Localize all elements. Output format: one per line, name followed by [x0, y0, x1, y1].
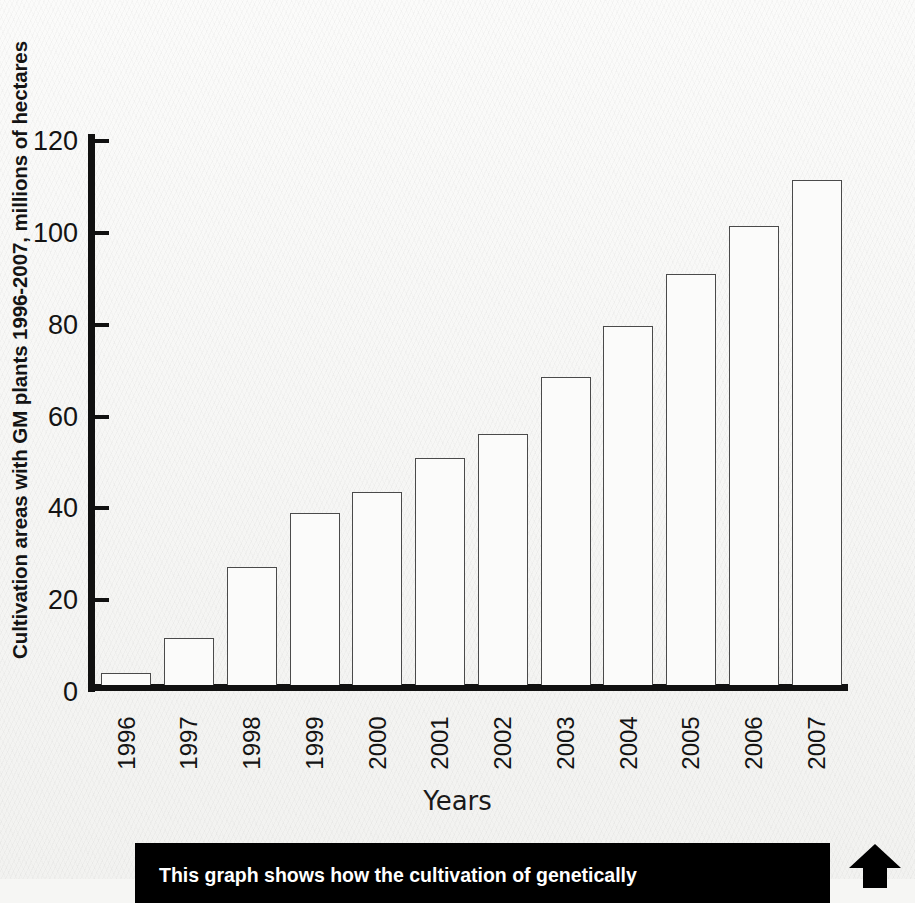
bar-slot [534, 134, 597, 685]
y-axis-tick-label: 0 [63, 679, 78, 706]
x-axis-tick-label: 1997 [175, 716, 203, 769]
y-axis-tick-label: 80 [48, 311, 78, 338]
up-arrow-icon [845, 842, 905, 888]
bar-slot [221, 134, 284, 685]
bar-slot [409, 134, 472, 685]
bar-2005 [666, 274, 716, 685]
caption-band: This graph shows how the cultivation of … [135, 843, 830, 903]
bar-2002 [478, 434, 528, 685]
bar-2003 [541, 377, 591, 685]
x-axis-tick-label-slot: 1998 [221, 697, 284, 779]
bar-slot [346, 134, 409, 685]
y-axis-tick-label: 20 [48, 587, 78, 614]
bar-slot [785, 134, 848, 685]
x-axis-tick-label-slot: 1996 [95, 697, 158, 779]
bar-2001 [415, 458, 465, 685]
caption-text: This graph shows how the cultivation of … [159, 863, 809, 887]
bar-1997 [164, 638, 214, 685]
x-axis-tick-label: 1999 [301, 716, 329, 769]
x-axis-tick-label: 1998 [238, 716, 266, 769]
bar-series [95, 134, 848, 685]
x-axis-tick-label: 2006 [740, 716, 768, 769]
y-axis-tick-label: 60 [48, 403, 78, 430]
bar-2000 [352, 492, 402, 685]
bar-1998 [227, 567, 277, 685]
y-axis-tick-label: 120 [33, 128, 78, 155]
x-axis-tick-label-slot: 2000 [346, 697, 409, 779]
x-axis-tick-label-slot: 1997 [158, 697, 221, 779]
bar-1996 [101, 673, 151, 685]
x-axis-line [88, 684, 848, 691]
x-axis-tick-label: 2002 [489, 716, 517, 769]
bar-slot [597, 134, 660, 685]
x-axis-tick-label-slot: 2003 [534, 697, 597, 779]
x-axis-title: Years [0, 786, 915, 816]
x-axis-tick-label: 2000 [363, 716, 391, 769]
x-axis-tick-labels: 1996199719981999200020012002200320042005… [95, 697, 848, 779]
x-axis-tick-label-slot: 2002 [472, 697, 535, 779]
x-axis-tick-label: 2007 [803, 716, 831, 769]
bar-2006 [729, 226, 779, 685]
bar-slot [723, 134, 786, 685]
y-axis-line [88, 134, 95, 692]
x-axis-tick-label-slot: 2001 [409, 697, 472, 779]
bar-chart-figure: Cultivation areas with GM plants 1996-20… [0, 0, 915, 820]
x-axis-tick-label-slot: 1999 [283, 697, 346, 779]
bar-slot [158, 134, 221, 685]
x-axis-tick-label-slot: 2005 [660, 697, 723, 779]
x-axis-tick-label-slot: 2006 [723, 697, 786, 779]
x-axis-tick-label-slot: 2007 [785, 697, 848, 779]
y-axis-title: Cultivation areas with GM plants 1996-20… [0, 0, 40, 700]
bar-slot [472, 134, 535, 685]
x-axis-tick-label: 2005 [677, 716, 705, 769]
bar-slot [283, 134, 346, 685]
x-axis-tick-label-slot: 2004 [597, 697, 660, 779]
bar-2007 [792, 180, 842, 685]
bar-slot [95, 134, 158, 685]
plot-area: 020406080100120 [88, 130, 848, 692]
bar-slot [660, 134, 723, 685]
x-axis-tick-label: 2004 [614, 716, 642, 769]
x-axis-tick-label: 2003 [552, 716, 580, 769]
y-axis-tick-label: 100 [33, 219, 78, 246]
y-axis-tick-label: 40 [48, 495, 78, 522]
x-axis-tick-label: 1996 [112, 716, 140, 769]
x-axis-tick-label: 2001 [426, 716, 454, 769]
bar-2004 [603, 326, 653, 685]
y-axis-title-text: Cultivation areas with GM plants 1996-20… [8, 41, 32, 659]
bar-1999 [290, 513, 340, 685]
